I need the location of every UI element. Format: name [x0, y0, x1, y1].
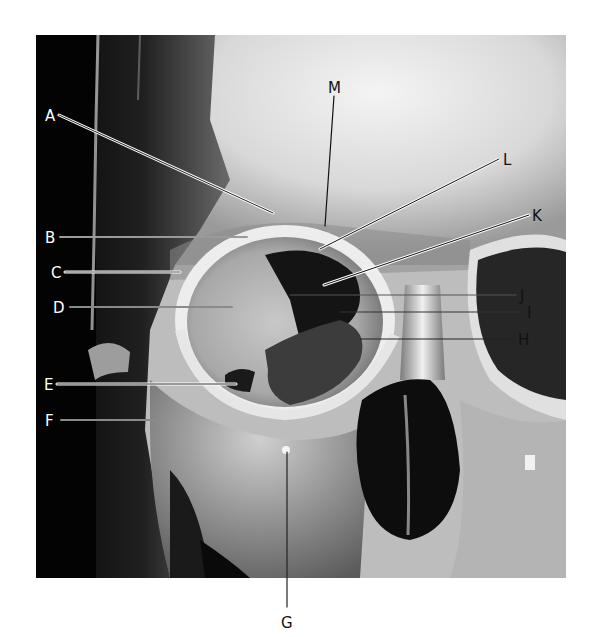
label-f: F [45, 412, 54, 430]
skull-orbit-figure: A B C D E F G H I J K L M [0, 0, 599, 637]
label-k: K [532, 207, 543, 225]
label-a: A [45, 107, 56, 125]
label-b: B [45, 229, 55, 247]
label-m: M [328, 79, 341, 97]
label-g: G [281, 614, 293, 632]
label-j: J [519, 287, 524, 305]
label-e: E [44, 376, 53, 394]
label-c: C [51, 264, 61, 282]
label-i: I [527, 304, 531, 322]
label-d: D [53, 299, 65, 317]
label-h: H [518, 331, 529, 349]
label-l: L [503, 151, 512, 169]
